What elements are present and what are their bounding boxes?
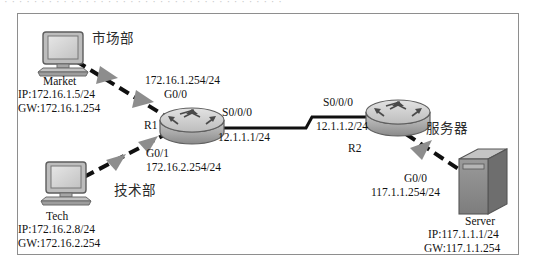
page-scrap-strip: · · · · · · · · · · · · · · · · · · · · … [0, 0, 538, 11]
label-r1-s0-0-0-ip: 12.1.1.1/24 [218, 131, 270, 144]
router-icon-r2 [366, 100, 430, 136]
label-r1-g0-0-name: G0/0 [164, 88, 187, 101]
label-r2-s0-0-0-ip: 12.1.1.2/24 [316, 120, 368, 133]
label-server-department: 服务器 [426, 122, 468, 135]
label-market-name: Market [43, 75, 76, 88]
label-r2-s0-0-0-name: S0/0/0 [323, 96, 353, 109]
pc-icon-tech [41, 162, 91, 205]
label-r1-g0-1-ip: 172.16.2.254/24 [146, 161, 221, 174]
label-server-ip: IP:117.1.1.1/24 [428, 228, 499, 241]
link-r2-server [406, 134, 466, 174]
label-market-ip: IP:172.16.1.5/24 [18, 88, 95, 101]
label-market-gateway: GW:172.16.1.254 [18, 102, 100, 115]
router-icon-r1 [160, 108, 224, 144]
label-r1-g0-0-ip: 172.16.1.254/24 [145, 74, 220, 87]
label-tech-department: 技术部 [114, 184, 156, 197]
diagram-canvas: 市场部 Market IP:172.16.1.5/24 GW:172.16.1.… [18, 14, 518, 254]
pc-icon-market [38, 32, 88, 76]
label-r2-g0-0-ip: 117.1.1.254/24 [371, 186, 440, 199]
label-server-gateway: GW:117.1.1.254 [424, 242, 500, 255]
label-r1-name: R1 [144, 119, 157, 132]
label-tech-gateway: GW:172.16.2.254 [18, 237, 100, 250]
label-r2-name: R2 [348, 142, 361, 155]
scrap-text: · · · · · · · · · · · · · · · · · · · · … [4, 0, 282, 7]
label-market-department: 市场部 [92, 32, 134, 45]
label-r2-g0-0-name: G0/0 [404, 172, 427, 185]
network-topology-figure: 市场部 Market IP:172.16.1.5/24 GW:172.16.1.… [17, 13, 519, 255]
label-tech-name: Tech [46, 210, 68, 223]
label-server-name: Server [465, 215, 495, 228]
label-r1-s0-0-0-name: S0/0/0 [222, 106, 252, 119]
label-tech-ip: IP:172.16.2.8/24 [18, 223, 95, 236]
server-icon [459, 149, 507, 214]
label-r1-g0-1-name: G0/1 [146, 147, 169, 160]
